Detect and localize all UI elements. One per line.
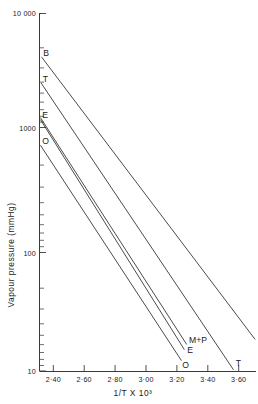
series-end-label-o: O (182, 360, 189, 370)
x-tick-label-3-20: 3·20 (169, 375, 184, 384)
series-end-label-e: E (187, 345, 193, 355)
x-axis-title: 1/T X 10³ (114, 388, 153, 398)
y-axis-major-ticks (40, 14, 47, 372)
x-tick-label-2-80: 2·80 (108, 375, 123, 384)
y-tick-label-1000: 1000 (19, 124, 36, 133)
series-start-label-b: B (43, 48, 49, 58)
series-start-label-e: E (42, 110, 48, 120)
series-line-e (41, 120, 185, 349)
x-axis-tick-labels: 2·40 2·60 2·80 3·00 3·20 3·40 3·60 (46, 375, 247, 384)
data-series-group (41, 57, 255, 369)
y-tick-label-10: 10 (28, 367, 36, 376)
series-end-label-t: T (236, 358, 242, 368)
series-end-label-m-p: M+P (189, 335, 207, 345)
series-line-o (41, 146, 182, 361)
series-line-b (42, 57, 255, 339)
x-tick-label-2-40: 2·40 (46, 375, 61, 384)
x-tick-label-3-40: 3·40 (200, 375, 215, 384)
axes (40, 13, 257, 372)
y-tick-label-100: 100 (23, 249, 36, 258)
x-tick-label-2-60: 2·60 (77, 375, 92, 384)
y-axis-title: Vapour pressure (mmHg) (6, 203, 16, 308)
y-axis-tick-labels: 10 000 1000 100 10 (13, 9, 36, 376)
vapour-pressure-chart: 10 000 1000 100 10 2·40 2·60 2·80 3·00 3… (0, 0, 258, 404)
series-label-group: BBTTM+PEEOO (42, 48, 258, 371)
chart-canvas: 10 000 1000 100 10 2·40 2·60 2·80 3·00 3… (0, 0, 258, 404)
y-axis-minor-ticks (40, 48, 45, 366)
series-start-label-o: O (42, 136, 49, 146)
x-tick-label-3-00: 3·00 (138, 375, 153, 384)
y-tick-label-10000: 10 000 (13, 9, 36, 18)
x-axis-ticks (53, 365, 238, 372)
x-tick-label-3-60: 3·60 (231, 375, 246, 384)
series-line-t (41, 83, 233, 369)
series-start-label-t: T (43, 74, 49, 84)
x-axis-title-main: 1/T X 10³ (114, 388, 153, 398)
